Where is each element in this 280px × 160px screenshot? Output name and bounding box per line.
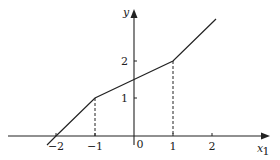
x-tick-label: −1 <box>87 140 103 153</box>
x-axis-label-subscript: 1 <box>263 145 270 158</box>
chart-canvas: −2 −1 0 1 2 1 2 y x 1 <box>0 0 280 160</box>
x-axis-arrow-icon <box>261 133 270 140</box>
x-tick-label: 1 <box>170 140 177 153</box>
y-tick-label: 1 <box>121 92 128 105</box>
y-axis-arrow-icon <box>131 9 138 18</box>
x-tick-label: −2 <box>48 140 64 153</box>
function-line <box>47 19 216 145</box>
x-tick-label: 0 <box>137 138 144 151</box>
x-tick-label: 2 <box>209 140 216 153</box>
y-tick-label: 2 <box>121 55 128 68</box>
y-axis-label: y <box>122 6 130 19</box>
